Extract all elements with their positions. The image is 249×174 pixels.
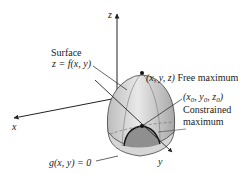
constrained-maximum-point bbox=[140, 124, 144, 128]
free-maximum-label: (x, y, z) Free maximum bbox=[146, 72, 238, 83]
constraint-leader bbox=[96, 156, 118, 161]
constraint-equation: g(x, y) = 0 bbox=[49, 157, 91, 168]
surface-equation: z = f(x, y) bbox=[52, 58, 91, 69]
surface-label: Surface bbox=[51, 47, 82, 58]
constrained-coords: (x0, y0, z0) bbox=[183, 91, 223, 102]
constrained-label-line2: maximum bbox=[183, 116, 224, 127]
free-maximum-text: Free maximum bbox=[177, 72, 238, 83]
free-maximum-coords: (x, y, z) bbox=[146, 72, 175, 83]
z-axis-label: z bbox=[108, 9, 112, 20]
diagram-canvas bbox=[0, 0, 249, 174]
y-axis-label: y bbox=[158, 156, 162, 167]
free-maximum-point bbox=[140, 71, 144, 75]
x-axis-label: x bbox=[12, 121, 16, 132]
constrained-label-line1: Constrained bbox=[183, 104, 231, 115]
x-axis bbox=[14, 98, 117, 118]
surface-leader bbox=[93, 66, 127, 90]
